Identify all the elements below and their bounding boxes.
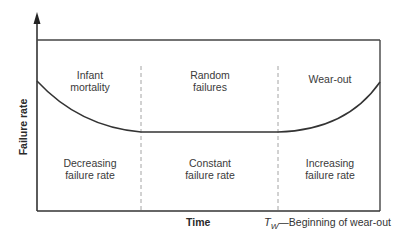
label-line: failure rate [160,169,260,181]
label-line: Constant [160,157,260,169]
bathtub-curve-diagram [0,0,412,246]
label-random-failures: Random failures [160,69,260,93]
y-axis-label: Failure rate [17,97,31,157]
label-increasing-failure-rate: Increasing failure rate [285,157,375,181]
label-constant-failure-rate: Constant failure rate [160,157,260,181]
y-axis-arrow-icon [34,12,41,24]
legend-dash: — [278,216,289,228]
label-line: Decreasing [44,157,136,169]
label-line: mortality [44,81,136,93]
legend-text: Beginning of wear-out [289,216,391,228]
tw-symbol-letter: T [264,216,271,228]
label-line: failure rate [44,169,136,181]
label-line: Infant [44,69,136,81]
label-line: Increasing [285,157,375,169]
x-axis-label: Time [186,216,210,228]
label-decreasing-failure-rate: Decreasing failure rate [44,157,136,181]
label-line: failure rate [285,169,375,181]
label-line: failures [160,81,260,93]
tw-legend: TW—Beginning of wear-out [264,216,391,231]
label-line: Random [160,69,260,81]
label-infant-mortality: Infant mortality [44,69,136,93]
tw-symbol: TW [264,216,278,228]
label-wear-out: Wear-out [285,73,375,85]
label-line: Wear-out [285,73,375,85]
